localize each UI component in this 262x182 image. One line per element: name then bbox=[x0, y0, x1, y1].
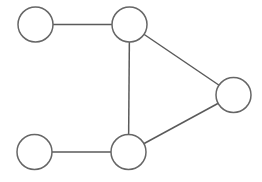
graph-diagram bbox=[0, 0, 262, 182]
node-n5 bbox=[111, 135, 146, 170]
edge-n2-n3 bbox=[130, 25, 234, 96]
node-n2 bbox=[112, 7, 147, 42]
node-n1 bbox=[18, 7, 53, 42]
edges-group bbox=[35, 25, 234, 153]
node-n3 bbox=[216, 78, 251, 113]
node-n4 bbox=[17, 135, 52, 170]
nodes-group bbox=[17, 7, 251, 170]
edge-n2-n5 bbox=[129, 25, 130, 153]
